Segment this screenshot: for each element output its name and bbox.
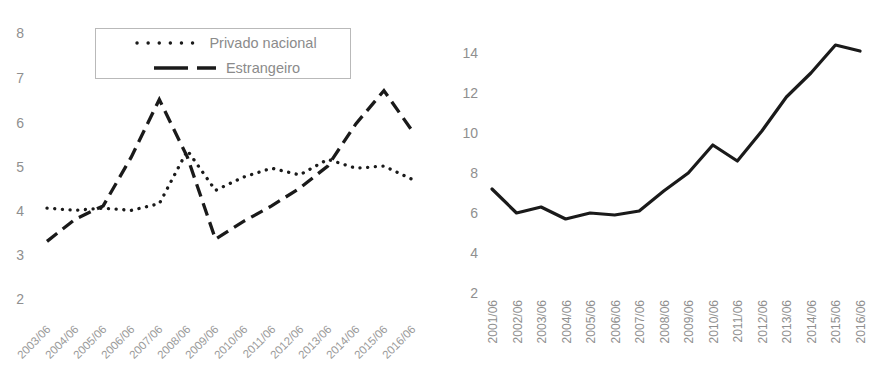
x-tick-label: 2006/06 <box>610 300 622 368</box>
x-tick-label: 2009/06 <box>683 300 695 368</box>
y-tick-label: 8 <box>438 166 478 180</box>
chart-panel-right: 1412108642 2001/062002/062003/062004/062… <box>446 0 892 368</box>
legend-entry-estrangeiro: Estrangeiro <box>96 55 350 80</box>
x-tick-label: 2004/06 <box>561 300 573 368</box>
y-tick-label: 8 <box>0 26 24 40</box>
x-tick-label: 2010/06 <box>708 300 720 368</box>
x-tick-label: 2011/06 <box>732 300 744 368</box>
y-tick-label: 10 <box>438 126 478 140</box>
y-tick-label: 5 <box>0 160 24 174</box>
series-line-estrangeiro <box>47 91 412 242</box>
series-line-privado-nacional <box>47 150 412 210</box>
x-tick-label: 2002/06 <box>512 300 524 368</box>
y-tick-label: 4 <box>438 246 478 260</box>
x-tick-label: 2016/06 <box>855 300 867 368</box>
two-panel-line-chart-figure: 8765432 2003/062004/062005/062006/062007… <box>0 0 892 368</box>
y-tick-label: 7 <box>0 71 24 85</box>
legend-label-privado-nacional: Privado nacional <box>207 35 316 51</box>
x-tick-label: 2007/06 <box>634 300 646 368</box>
x-tick-label: 2001/06 <box>487 300 499 368</box>
chart-panel-left: 8765432 2003/062004/062005/062006/062007… <box>0 0 446 368</box>
y-tick-label: 6 <box>438 206 478 220</box>
y-tick-label: 2 <box>0 292 24 306</box>
y-tick-label: 2 <box>438 286 478 300</box>
y-tick-label: 3 <box>0 248 24 262</box>
y-tick-label: 14 <box>438 46 478 60</box>
x-tick-label: 2012/06 <box>757 300 769 368</box>
x-tick-label: 2008/06 <box>659 300 671 368</box>
x-tick-label: 2005/06 <box>585 300 597 368</box>
x-tick-label: 2013/06 <box>781 300 793 368</box>
legend-label-estrangeiro: Estrangeiro <box>224 60 300 76</box>
y-tick-label: 4 <box>0 204 24 218</box>
x-tick-label: 2003/06 <box>536 300 548 368</box>
legend-left: Privado nacional Estrangeiro <box>95 28 351 79</box>
y-tick-label: 6 <box>0 116 24 130</box>
x-tick-label: 2014/06 <box>806 300 818 368</box>
dashed-line-sample-icon <box>146 62 224 74</box>
series-line-p-blico <box>492 45 860 219</box>
dotted-line-sample-icon <box>129 37 207 49</box>
y-tick-label: 12 <box>438 86 478 100</box>
x-tick-label: 2015/06 <box>830 300 842 368</box>
legend-entry-privado-nacional: Privado nacional <box>96 30 350 55</box>
